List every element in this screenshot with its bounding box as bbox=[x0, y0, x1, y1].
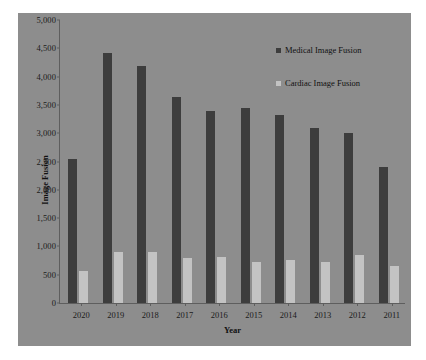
y-axis-tick-label: 4,000 bbox=[36, 71, 56, 81]
bar-cardiac bbox=[390, 266, 399, 303]
bar-cardiac bbox=[252, 262, 261, 303]
x-axis-tick-mark bbox=[288, 303, 289, 306]
bar-group: 2015 bbox=[241, 20, 268, 303]
bar-group: 2020 bbox=[68, 20, 95, 303]
x-axis-tick-label: 2014 bbox=[280, 310, 297, 320]
legend-label-medical: Medical Image Fusion bbox=[285, 45, 361, 55]
legend-swatch-icon-medical bbox=[276, 48, 281, 53]
y-axis-tick-mark bbox=[57, 133, 60, 134]
x-axis-line bbox=[59, 303, 405, 304]
bar-medical bbox=[206, 111, 215, 303]
x-axis-title: Year bbox=[60, 325, 405, 335]
bar-cardiac bbox=[355, 255, 364, 303]
y-axis-tick-mark bbox=[57, 218, 60, 219]
y-axis-tick-label: 1,500 bbox=[36, 213, 56, 223]
bar-medical bbox=[344, 133, 353, 303]
y-axis-tick-mark bbox=[57, 161, 60, 162]
legend-swatch-icon-cardiac bbox=[276, 81, 281, 86]
bar-group: 2011 bbox=[379, 20, 406, 303]
y-axis-tick-label: 3,500 bbox=[36, 100, 56, 110]
y-axis-tick-mark bbox=[57, 104, 60, 105]
x-axis-tick-label: 2015 bbox=[245, 310, 262, 320]
x-axis-tick-mark bbox=[116, 303, 117, 306]
bar-group: 2019 bbox=[103, 20, 130, 303]
x-axis-tick-label: 2013 bbox=[314, 310, 331, 320]
x-axis-tick-label: 2020 bbox=[73, 310, 90, 320]
y-axis-tick-label: 5,000 bbox=[36, 15, 56, 25]
y-axis-tick-mark bbox=[57, 76, 60, 77]
y-axis-tick-label: 4,500 bbox=[36, 43, 56, 53]
x-axis-tick-label: 2012 bbox=[349, 310, 366, 320]
x-axis-tick-mark bbox=[254, 303, 255, 306]
x-axis-tick-mark bbox=[150, 303, 151, 306]
y-axis-tick-mark bbox=[57, 274, 60, 275]
bar-cardiac bbox=[321, 262, 330, 303]
bar-cardiac bbox=[114, 252, 123, 303]
bar-medical bbox=[103, 53, 112, 303]
bar-chart: Image Fusion 5,0004,5004,0003,5003,0002,… bbox=[18, 13, 411, 346]
bar-group: 2018 bbox=[137, 20, 164, 303]
bar-group: 2016 bbox=[206, 20, 233, 303]
x-axis-tick-label: 2011 bbox=[383, 310, 400, 320]
x-axis-tick-label: 2018 bbox=[142, 310, 159, 320]
x-axis-tick-mark bbox=[185, 303, 186, 306]
bar-cardiac bbox=[79, 271, 88, 303]
chart-legend: Medical Image Fusion Cardiac Image Fusio… bbox=[276, 45, 361, 111]
y-axis-tick-mark bbox=[57, 20, 60, 21]
y-axis-tick-mark bbox=[57, 189, 60, 190]
bar-medical bbox=[137, 66, 146, 303]
bar-cardiac bbox=[217, 257, 226, 303]
x-axis-tick-mark bbox=[219, 303, 220, 306]
y-axis-tick-label: 0 bbox=[52, 298, 56, 308]
y-axis-tick-label: 500 bbox=[43, 269, 56, 279]
bar-cardiac bbox=[286, 260, 295, 303]
bar-cardiac bbox=[183, 258, 192, 303]
bar-medical bbox=[310, 128, 319, 303]
y-axis-tick-mark bbox=[57, 303, 60, 304]
x-axis-tick-mark bbox=[392, 303, 393, 306]
bar-cardiac bbox=[148, 252, 157, 303]
legend-item-medical: Medical Image Fusion bbox=[276, 45, 361, 55]
y-axis-tick-mark bbox=[57, 48, 60, 49]
legend-item-cardiac: Cardiac Image Fusion bbox=[276, 78, 361, 88]
bar-medical bbox=[172, 97, 181, 303]
bar-medical bbox=[68, 159, 77, 303]
y-axis-tick-mark bbox=[57, 246, 60, 247]
y-axis-tick-label: 1,000 bbox=[36, 241, 56, 251]
x-axis-tick-mark bbox=[81, 303, 82, 306]
x-axis-tick-mark bbox=[323, 303, 324, 306]
x-axis-tick-label: 2017 bbox=[176, 310, 193, 320]
x-axis-tick-mark bbox=[357, 303, 358, 306]
y-axis-tick-label: 3,000 bbox=[36, 128, 56, 138]
y-axis-tick-label: 2,000 bbox=[36, 185, 56, 195]
bar-medical bbox=[379, 167, 388, 303]
bar-medical bbox=[275, 115, 284, 303]
legend-label-cardiac: Cardiac Image Fusion bbox=[285, 78, 360, 88]
bar-group: 2017 bbox=[172, 20, 199, 303]
x-axis-tick-label: 2019 bbox=[107, 310, 124, 320]
y-axis-tick-label: 2,500 bbox=[36, 156, 56, 166]
bar-medical bbox=[241, 108, 250, 303]
x-axis-tick-label: 2016 bbox=[211, 310, 228, 320]
